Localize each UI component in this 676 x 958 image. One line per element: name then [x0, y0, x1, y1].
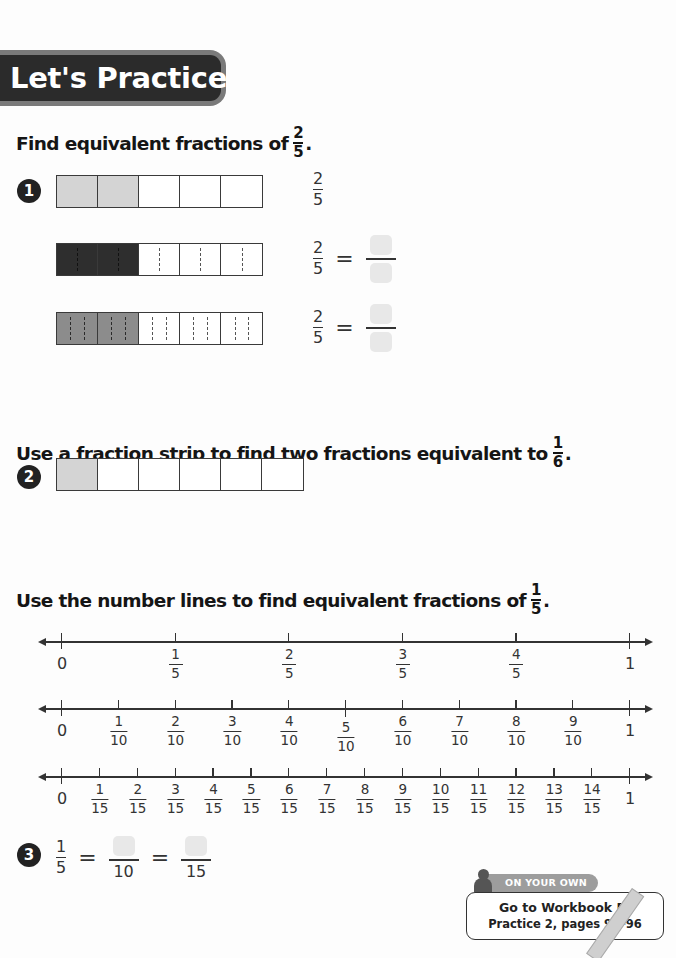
tick-mark — [553, 768, 554, 777]
tick-mark — [515, 768, 516, 777]
denominator: 5 — [313, 192, 323, 208]
fraction-strip-sixths — [56, 458, 304, 491]
strip-cell — [180, 244, 221, 275]
denominator-answer-box[interactable] — [370, 332, 392, 352]
fraction: 1015 — [432, 783, 449, 815]
numerator: 3 — [228, 715, 237, 729]
fraction: 25 — [313, 309, 323, 346]
tick-mark — [402, 633, 403, 642]
number-line-axis — [44, 708, 650, 710]
tick-mark — [402, 768, 403, 777]
tick-label: 315 — [167, 783, 184, 815]
answer-fraction: 15 — [181, 836, 211, 880]
strip-cell — [98, 459, 139, 490]
tick-mark — [61, 768, 62, 784]
arrow-right-icon — [645, 705, 653, 713]
tick-label: 115 — [91, 783, 108, 815]
fraction: 410 — [281, 715, 298, 747]
numerator: 6 — [399, 715, 408, 729]
number-line-axis — [44, 776, 650, 778]
fraction-bar — [109, 859, 139, 861]
denominator: 15 — [167, 802, 184, 816]
strip-cell — [221, 244, 262, 275]
denominator: 15 — [356, 802, 373, 816]
denominator: 5 — [56, 860, 66, 876]
denominator: 5 — [512, 667, 521, 681]
strip-cell — [98, 244, 139, 275]
denominator: 15 — [394, 802, 411, 816]
denominator: 5 — [171, 667, 180, 681]
denominator: 10 — [394, 734, 411, 748]
numerator: 4 — [209, 783, 218, 797]
tick-label: 410 — [281, 715, 298, 747]
denominator: 15 — [432, 802, 449, 816]
subdivision-line — [84, 317, 85, 340]
tick-mark — [572, 700, 573, 709]
fraction: 1115 — [470, 783, 487, 815]
fraction: 915 — [394, 783, 411, 815]
subdivision-line — [70, 317, 71, 340]
instruction-3: Use the number lines to find equivalent … — [16, 583, 549, 617]
tick-label: 910 — [565, 715, 582, 747]
tick-label: 615 — [281, 783, 298, 815]
numerator-answer-box[interactable] — [370, 235, 392, 255]
fraction-bar — [366, 258, 396, 260]
numerator: 9 — [569, 715, 578, 729]
person-head-icon — [478, 869, 489, 880]
fraction-bar — [181, 859, 211, 861]
tick-label: 610 — [394, 715, 411, 747]
numerator: 13 — [546, 783, 563, 797]
strip-cell — [262, 459, 303, 490]
subdivision-line — [125, 317, 126, 340]
denominator: 15 — [186, 864, 206, 880]
tick-mark — [629, 700, 630, 716]
equals-sign: = — [335, 315, 353, 340]
denominator: 5 — [313, 261, 323, 277]
tick-label: 0 — [57, 721, 67, 740]
problem-number-3: 3 — [17, 843, 41, 867]
denominator: 15 — [129, 802, 146, 816]
tick-label: 15 — [169, 648, 183, 680]
instruction-text: Use the number lines to find equivalent … — [16, 590, 526, 611]
tick-mark — [515, 700, 516, 709]
strip-cell — [57, 244, 98, 275]
numerator-answer-box[interactable] — [370, 304, 392, 324]
tick-mark — [175, 768, 176, 777]
fraction: 110 — [110, 715, 127, 747]
strip-cell — [57, 313, 98, 344]
numerator-answer-box[interactable] — [185, 836, 207, 856]
numerator-answer-box[interactable] — [113, 836, 135, 856]
answer-fraction — [366, 304, 396, 352]
denominator-answer-box[interactable] — [370, 263, 392, 283]
tick-mark — [288, 633, 289, 642]
fraction-strip-fifths — [56, 243, 263, 276]
tick-mark — [364, 768, 365, 777]
numerator: 7 — [455, 715, 464, 729]
fraction: 115 — [91, 783, 108, 815]
tick-label: 0 — [57, 789, 67, 808]
strip-cell — [221, 176, 262, 207]
strip-cell — [98, 313, 139, 344]
numerator: 3 — [171, 783, 180, 797]
strip-cell — [180, 176, 221, 207]
denominator: 15 — [318, 802, 335, 816]
numerator: 2 — [313, 240, 323, 256]
tick-mark — [250, 768, 251, 777]
fraction: 610 — [394, 715, 411, 747]
fraction: 15 — [169, 648, 183, 680]
fraction: 1415 — [584, 783, 601, 815]
subdivision-line — [200, 248, 201, 271]
tick-label: 215 — [129, 783, 146, 815]
tick-label: 1415 — [584, 783, 601, 815]
strip-cell — [98, 176, 139, 207]
subdivision-line — [193, 317, 194, 340]
numerator: 11 — [470, 783, 487, 797]
subdivision-line — [242, 248, 243, 271]
strip-cell — [139, 176, 180, 207]
strip-cell — [57, 176, 98, 207]
denominator: 15 — [205, 802, 222, 816]
fraction-bar — [366, 327, 396, 329]
strip-cell — [221, 459, 262, 490]
tick-label: 810 — [508, 715, 525, 747]
numerator: 4 — [285, 715, 294, 729]
